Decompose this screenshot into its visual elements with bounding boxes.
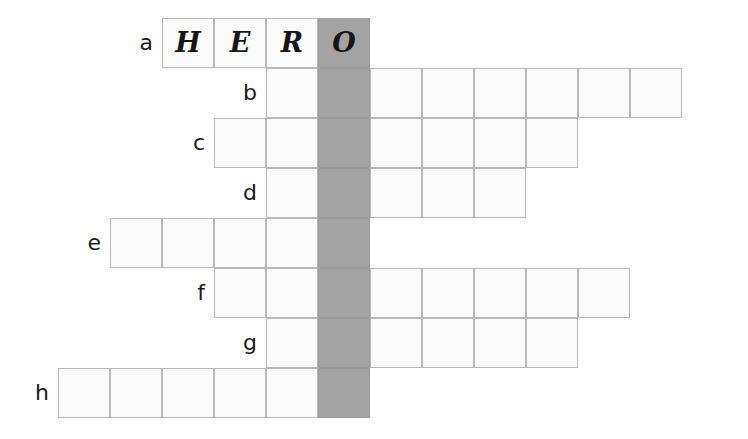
cell-g-6[interactable] bbox=[526, 318, 578, 368]
cell-f-4[interactable] bbox=[370, 268, 422, 318]
cell-e-3[interactable] bbox=[214, 218, 266, 268]
cell-d-3[interactable] bbox=[370, 168, 422, 218]
cell-a-2[interactable]: E bbox=[214, 18, 266, 68]
cell-f-7[interactable] bbox=[526, 268, 578, 318]
cell-g-3[interactable] bbox=[370, 318, 422, 368]
row-label-c: c bbox=[162, 118, 214, 168]
cell-c-3-solution[interactable] bbox=[318, 118, 370, 168]
cell-g-2-solution[interactable] bbox=[318, 318, 370, 368]
cell-c-6[interactable] bbox=[474, 118, 526, 168]
cell-g-5[interactable] bbox=[474, 318, 526, 368]
cell-c-5[interactable] bbox=[422, 118, 474, 168]
cell-f-1[interactable] bbox=[214, 268, 266, 318]
cell-d-1[interactable] bbox=[266, 168, 318, 218]
cell-g-1[interactable] bbox=[266, 318, 318, 368]
cell-letter-a-4: O bbox=[319, 19, 369, 67]
cell-e-2[interactable] bbox=[162, 218, 214, 268]
cell-f-5[interactable] bbox=[422, 268, 474, 318]
cell-c-4[interactable] bbox=[370, 118, 422, 168]
cell-f-6[interactable] bbox=[474, 268, 526, 318]
cell-c-7[interactable] bbox=[526, 118, 578, 168]
cell-a-3[interactable]: R bbox=[266, 18, 318, 68]
cell-letter-a-1: H bbox=[163, 19, 213, 67]
cell-e-4[interactable] bbox=[266, 218, 318, 268]
cell-h-6-solution[interactable] bbox=[318, 368, 370, 418]
cell-f-8[interactable] bbox=[578, 268, 630, 318]
cell-letter-a-2: E bbox=[215, 19, 265, 67]
cell-h-1[interactable] bbox=[58, 368, 110, 418]
cell-e-5-solution[interactable] bbox=[318, 218, 370, 268]
row-label-a: a bbox=[110, 18, 162, 68]
cell-a-1[interactable]: H bbox=[162, 18, 214, 68]
cell-b-2-solution[interactable] bbox=[318, 68, 370, 118]
cell-d-2-solution[interactable] bbox=[318, 168, 370, 218]
cell-c-1[interactable] bbox=[214, 118, 266, 168]
row-label-e: e bbox=[58, 218, 110, 268]
cell-e-1[interactable] bbox=[110, 218, 162, 268]
cell-b-1[interactable] bbox=[266, 68, 318, 118]
row-label-g: g bbox=[214, 318, 266, 368]
row-label-d: d bbox=[214, 168, 266, 218]
cell-letter-a-3: R bbox=[267, 19, 317, 67]
cell-b-4[interactable] bbox=[422, 68, 474, 118]
row-label-b: b bbox=[214, 68, 266, 118]
cell-b-8[interactable] bbox=[630, 68, 682, 118]
cell-b-5[interactable] bbox=[474, 68, 526, 118]
cell-g-4[interactable] bbox=[422, 318, 474, 368]
cell-a-4-solution[interactable]: O bbox=[318, 18, 370, 68]
cell-h-5[interactable] bbox=[266, 368, 318, 418]
cell-b-7[interactable] bbox=[578, 68, 630, 118]
cell-h-2[interactable] bbox=[110, 368, 162, 418]
cell-f-3-solution[interactable] bbox=[318, 268, 370, 318]
row-label-h: h bbox=[6, 368, 58, 418]
cell-d-4[interactable] bbox=[422, 168, 474, 218]
row-label-f: f bbox=[162, 268, 214, 318]
cell-d-5[interactable] bbox=[474, 168, 526, 218]
cell-f-2[interactable] bbox=[266, 268, 318, 318]
cell-h-3[interactable] bbox=[162, 368, 214, 418]
cell-c-2[interactable] bbox=[266, 118, 318, 168]
cell-b-3[interactable] bbox=[370, 68, 422, 118]
cell-b-6[interactable] bbox=[526, 68, 578, 118]
crossword-puzzle-grid: aHERObcdefgh bbox=[0, 0, 748, 439]
cell-h-4[interactable] bbox=[214, 368, 266, 418]
